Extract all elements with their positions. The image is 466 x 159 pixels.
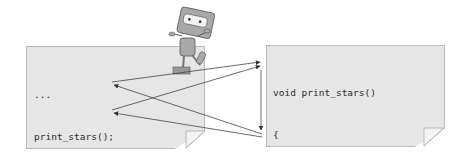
arrow-return-to-call1 <box>114 85 262 134</box>
arrow-return-to-call2 <box>114 113 262 137</box>
arrow-call2-to-function <box>112 66 260 110</box>
arrow-call1-to-function <box>112 62 260 82</box>
call-flow-arrows <box>0 0 466 159</box>
